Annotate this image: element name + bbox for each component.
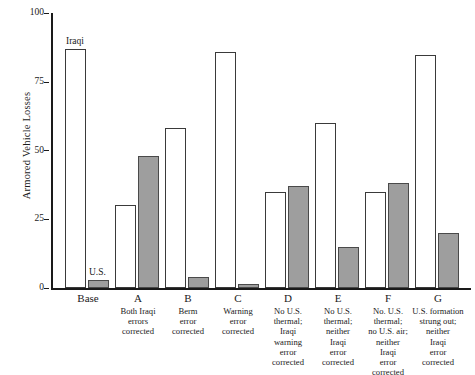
bar-group-base: Iraqi U.S.	[65, 13, 111, 288]
y-tick-label-100: 100	[18, 8, 44, 18]
series-label-us: U.S.	[89, 267, 106, 277]
bar-group-a	[115, 13, 161, 288]
y-tick-label-0: 0	[18, 283, 44, 293]
bar-group-d	[265, 13, 311, 288]
bar-group-c	[215, 13, 261, 288]
bar-b-iraqi	[165, 128, 186, 288]
x-label-g-key: G	[401, 292, 475, 305]
bar-d-us	[288, 186, 309, 288]
plot-area: Iraqi U.S.	[53, 13, 471, 288]
y-axis-tick-labels: 100 75 50 25 0	[18, 0, 44, 375]
armored-vehicle-losses-chart: Armored Vehicle Losses 100 75 50 25 0 Ir…	[0, 0, 475, 375]
x-axis-labels: Base A Both Iraqierrorscorrected B Berme…	[53, 292, 471, 375]
bar-c-us	[238, 284, 259, 288]
y-tick-mark-0	[44, 288, 49, 289]
bar-a-us	[138, 156, 159, 288]
bar-d-iraqi	[265, 192, 286, 288]
bar-g-us	[438, 233, 459, 288]
bar-f-us	[388, 183, 409, 288]
x-label-g: G U.S. formationstrung out;neitherIraqie…	[401, 292, 475, 367]
bar-base-iraqi	[65, 49, 86, 288]
bar-group-f	[365, 13, 411, 288]
bar-group-g	[415, 13, 461, 288]
x-label-g-desc: U.S. formationstrung out;neitherIraqierr…	[401, 306, 475, 367]
x-axis-line	[51, 288, 471, 290]
bar-base-us	[88, 280, 109, 288]
series-label-iraqi: Iraqi	[66, 36, 84, 46]
bar-g-iraqi	[415, 55, 436, 288]
y-tick-mark-25	[44, 219, 49, 220]
y-tick-label-25: 25	[18, 214, 44, 224]
bar-b-us	[188, 277, 209, 288]
bar-group-b	[165, 13, 211, 288]
bar-group-e	[315, 13, 361, 288]
y-tick-label-50: 50	[18, 146, 44, 156]
bar-e-iraqi	[315, 123, 336, 288]
y-tick-mark-50	[44, 150, 49, 151]
bar-e-us	[338, 247, 359, 288]
bar-f-iraqi	[365, 192, 386, 288]
y-tick-label-75: 75	[18, 77, 44, 87]
bar-a-iraqi	[115, 205, 136, 288]
y-tick-mark-75	[44, 82, 49, 83]
y-tick-mark-100	[44, 13, 49, 14]
bar-c-iraqi	[215, 52, 236, 288]
